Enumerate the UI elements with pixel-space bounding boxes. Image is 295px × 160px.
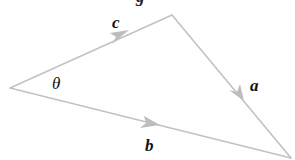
cut-off-glyph: g <box>136 0 145 5</box>
angle-theta-label: θ <box>52 75 60 92</box>
vector-triangle-diagram: g c a b θ <box>0 0 295 160</box>
vector-c-line <box>10 15 172 88</box>
label-b: b <box>145 137 154 154</box>
vector-b-arrowhead-icon <box>140 116 160 128</box>
label-a: a <box>250 77 259 94</box>
label-c: c <box>112 14 120 31</box>
vector-a-line <box>172 15 291 158</box>
